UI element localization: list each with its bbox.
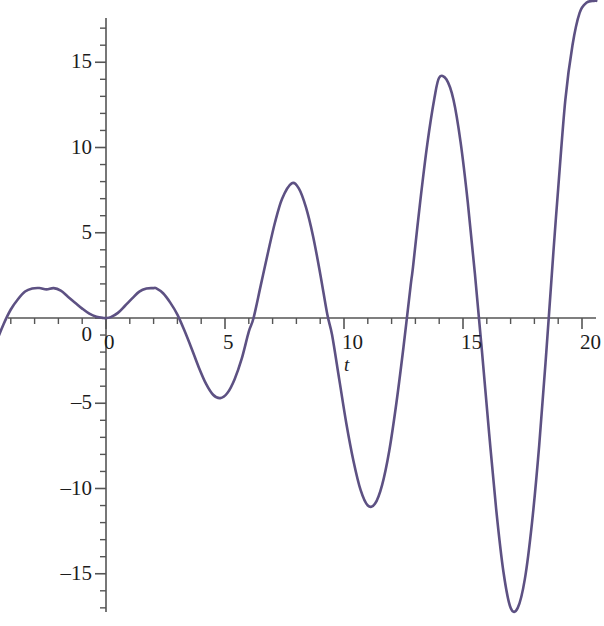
x-tick-label: 15 [461, 332, 482, 353]
x-axis-group [8, 318, 596, 329]
y-tick-label: 15 [71, 51, 92, 72]
x-axis-ticks [11, 318, 582, 329]
y-tick-label: 5 [82, 222, 93, 243]
y-tick-label: 0 [82, 324, 93, 345]
x-tick-label: 20 [580, 332, 601, 353]
y-tick-label: –10 [61, 478, 93, 499]
x-tick-label: 10 [342, 332, 363, 353]
x-tick-label: 5 [223, 332, 234, 353]
y-tick-label: –15 [61, 563, 93, 584]
x-tick-label: 0 [104, 332, 115, 353]
y-tick-label: 10 [71, 137, 92, 158]
y-tick-label: –5 [71, 392, 92, 413]
plot-canvas [0, 0, 604, 626]
plot-figure: 05101520 –15–10–5051015 t [0, 0, 604, 626]
data-series-line [0, 1, 596, 612]
x-axis-label: t [344, 355, 349, 374]
y-axis-group [95, 18, 106, 612]
